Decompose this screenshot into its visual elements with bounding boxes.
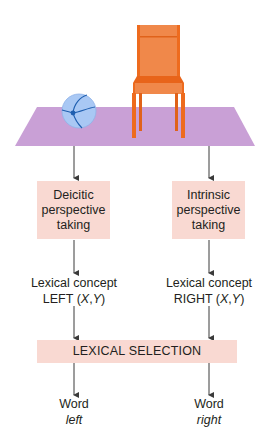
left-word: Word left (34, 396, 114, 428)
intrinsic-line-3: taking (192, 218, 225, 233)
right-word: Word right (169, 396, 249, 428)
right-word-value: right (169, 412, 249, 428)
intrinsic-line-2: perspective (177, 203, 241, 218)
left-word-label: Word (34, 396, 114, 412)
left-concept-formula: LEFT (X,Y) (14, 291, 134, 307)
right-concept-title: Lexical concept (149, 275, 269, 291)
deictic-line-1: Deicitic (53, 188, 93, 203)
deictic-line-3: taking (57, 218, 90, 233)
left-concept-title: Lexical concept (14, 275, 134, 291)
left-word-value: left (34, 412, 114, 428)
left-lexical-concept: Lexical concept LEFT (X,Y) (14, 275, 134, 307)
right-word-label: Word (169, 396, 249, 412)
lexical-selection-box: LEXICAL SELECTION (37, 340, 237, 363)
deictic-line-2: perspective (42, 203, 106, 218)
ball-icon (62, 94, 96, 128)
intrinsic-perspective-box: Intrinsic perspective taking (172, 181, 245, 239)
right-lexical-concept: Lexical concept RIGHT (X,Y) (149, 275, 269, 307)
intrinsic-line-1: Intrinsic (187, 188, 230, 203)
lexical-selection-label: LEXICAL SELECTION (73, 344, 202, 359)
right-concept-formula: RIGHT (X,Y) (149, 291, 269, 307)
deictic-perspective-box: Deicitic perspective taking (37, 181, 110, 239)
